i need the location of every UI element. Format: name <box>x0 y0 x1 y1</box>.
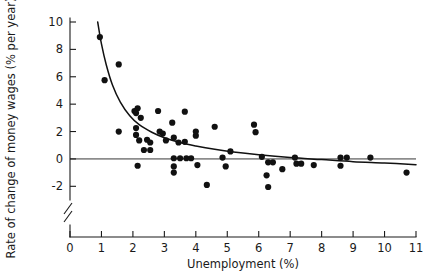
x-tick-label-11: 11 <box>409 241 424 255</box>
data-point <box>219 154 225 160</box>
data-point <box>177 155 183 161</box>
x-tick-marks <box>70 231 416 237</box>
data-point <box>135 163 141 169</box>
y-tick-marks <box>70 22 76 186</box>
data-point <box>251 122 257 128</box>
x-tick-label-0: 0 <box>66 241 73 255</box>
data-point <box>337 163 343 169</box>
x-tick-label-3: 3 <box>161 241 168 255</box>
y-tick-label-8: 8 <box>56 42 63 56</box>
data-point <box>147 147 153 153</box>
x-tick-label-6: 6 <box>255 241 262 255</box>
data-point <box>141 147 147 153</box>
scatter-points <box>97 34 410 190</box>
fit-curve-group <box>98 22 416 165</box>
x-tick-label-2: 2 <box>129 241 136 255</box>
data-point <box>171 155 177 161</box>
data-point <box>102 77 108 83</box>
x-axis: 01234567891011 <box>66 231 423 255</box>
y-tick-label--2: -2 <box>52 179 63 193</box>
data-point <box>97 34 103 40</box>
y-tick-label-0: 0 <box>56 152 63 166</box>
data-point <box>138 115 144 121</box>
data-point <box>193 128 199 134</box>
y-tick-label-10: 10 <box>48 15 63 29</box>
data-point <box>252 129 258 135</box>
chart-canvas: -20246810 01234567891011 Unemployment (%… <box>0 0 441 277</box>
data-point <box>175 139 181 145</box>
data-point <box>194 162 200 168</box>
data-point <box>116 128 122 134</box>
phillips-fit-curve <box>98 22 416 165</box>
x-tick-label-1: 1 <box>98 241 105 255</box>
x-tick-label-8: 8 <box>318 241 325 255</box>
x-tick-labels: 01234567891011 <box>66 241 423 255</box>
data-point <box>270 159 276 165</box>
x-tick-label-7: 7 <box>287 241 294 255</box>
y-tick-label-4: 4 <box>56 97 63 111</box>
y-tick-label-2: 2 <box>56 125 63 139</box>
data-point <box>337 154 343 160</box>
data-point <box>155 108 161 114</box>
x-axis-title: Unemployment (%) <box>187 257 299 271</box>
data-point <box>133 125 139 131</box>
y-axis: -20246810 <box>48 15 76 237</box>
data-point <box>169 120 175 126</box>
data-point <box>147 139 153 145</box>
y-tick-labels: -20246810 <box>48 15 63 193</box>
data-point <box>135 105 141 111</box>
data-point <box>171 135 177 141</box>
data-point <box>182 109 188 115</box>
phillips-curve-figure: -20246810 01234567891011 Unemployment (%… <box>0 0 441 277</box>
data-point <box>298 161 304 167</box>
data-point <box>223 163 229 169</box>
data-point <box>171 170 177 176</box>
data-point <box>292 154 298 160</box>
data-point <box>263 172 269 178</box>
data-point <box>212 124 218 130</box>
data-point <box>133 132 139 138</box>
x-tick-label-10: 10 <box>377 241 392 255</box>
data-point <box>265 184 271 190</box>
y-tick-label-6: 6 <box>56 70 63 84</box>
data-point <box>311 162 317 168</box>
axis-break-icon <box>64 203 72 222</box>
data-point <box>171 163 177 169</box>
y-axis-title: Rate of change of money wages (% per yea… <box>4 0 18 259</box>
data-point <box>259 154 265 160</box>
data-point <box>188 155 194 161</box>
data-point <box>279 166 285 172</box>
data-point <box>204 182 210 188</box>
x-tick-label-9: 9 <box>349 241 356 255</box>
data-point <box>116 61 122 67</box>
x-tick-label-5: 5 <box>224 241 231 255</box>
x-tick-label-4: 4 <box>192 241 199 255</box>
data-point <box>403 170 409 176</box>
data-point <box>367 154 373 160</box>
data-point <box>344 154 350 160</box>
data-point <box>182 139 188 145</box>
data-point <box>136 137 142 143</box>
data-point <box>163 137 169 143</box>
data-point <box>160 130 166 136</box>
data-point <box>227 148 233 154</box>
